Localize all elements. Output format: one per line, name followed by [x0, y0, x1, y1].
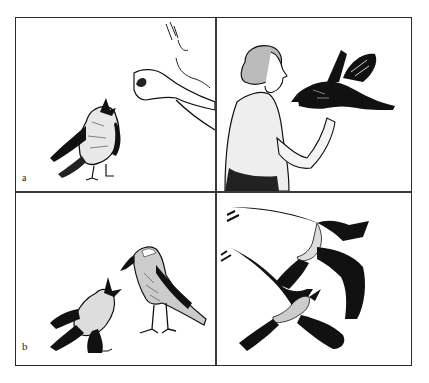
flying-crows-illustration	[217, 193, 412, 365]
figure-frame: a	[15, 17, 412, 366]
panel-label-a: a	[22, 172, 26, 183]
horizontal-divider	[16, 191, 411, 193]
young-and-adult-crow-illustration	[16, 193, 215, 365]
panel-woman-holding-crow	[217, 18, 412, 191]
woman-with-crow-illustration	[217, 18, 412, 191]
crow-and-hand-illustration	[16, 18, 215, 191]
panel-b-young-and-adult-crow: b	[16, 193, 215, 365]
panel-two-crows-flying	[217, 193, 412, 365]
panel-a-begging-crow-hand: a	[16, 18, 215, 191]
panel-label-b: b	[22, 340, 28, 352]
figure-caption	[30, 375, 410, 383]
